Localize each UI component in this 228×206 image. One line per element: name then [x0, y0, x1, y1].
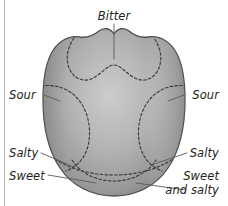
label-sweet-right: Sweet [183, 169, 219, 183]
label-salty-right: Salty [190, 146, 219, 160]
label-bitter: Bitter [98, 9, 132, 23]
label-sour-right: Sour [192, 88, 220, 102]
tongue-taste-map-figure: Bitter Sour Sour Salty Salty Sweet Sweet… [0, 0, 228, 206]
label-sour-left: Sour [9, 88, 37, 102]
label-sweet-left: Sweet [9, 169, 45, 183]
tongue-body [40, 25, 190, 200]
tongue-edge-shading [40, 25, 190, 200]
label-and-salty-right: and salty [165, 183, 219, 197]
label-salty-left: Salty [9, 146, 38, 160]
